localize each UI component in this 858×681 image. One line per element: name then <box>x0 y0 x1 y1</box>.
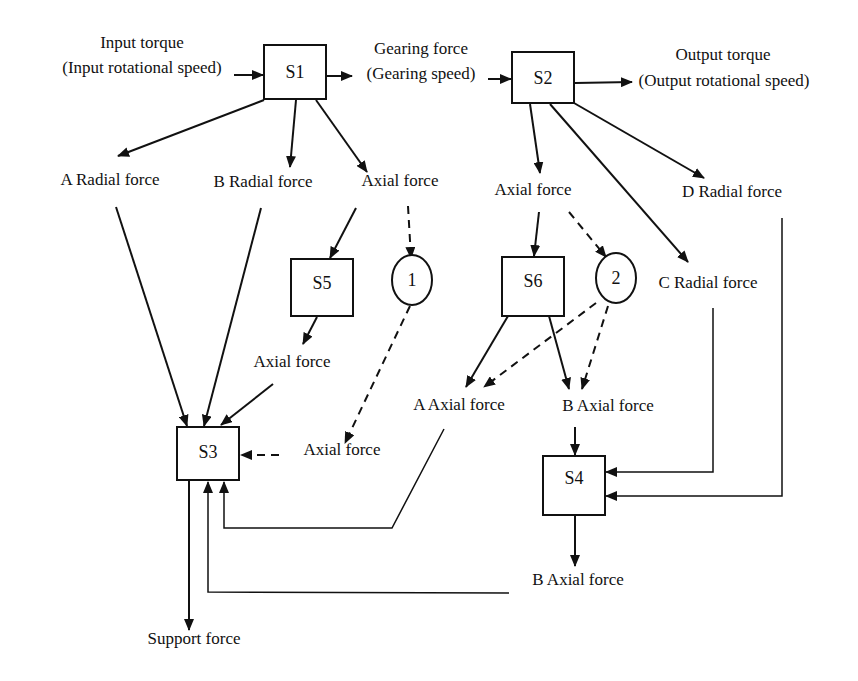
edge-a-radial-to-s3 <box>116 207 187 426</box>
label-input-torque: Input torque <box>100 33 184 52</box>
node-s5: S5 <box>291 259 353 316</box>
node-circle-1-label: 1 <box>408 270 417 290</box>
edges <box>116 75 782 630</box>
edge-circle-1-to-axial <box>345 306 410 443</box>
node-circle-2: 2 <box>596 253 636 303</box>
edge-s5-axial-to-s3 <box>221 384 273 425</box>
edge-s6-to-a-axial <box>466 316 508 387</box>
edge-axial-to-circle-1 <box>408 206 411 258</box>
labels: Input torque (Input rotational speed) Ge… <box>60 33 809 648</box>
label-gearing-speed: (Gearing speed) <box>366 64 475 83</box>
label-input-rotational-speed: (Input rotational speed) <box>62 58 222 77</box>
label-a-radial-force: A Radial force <box>60 170 159 189</box>
node-s2: S2 <box>512 52 574 103</box>
node-circle-2-label: 2 <box>612 268 621 288</box>
edge-c-radial-to-s4 <box>606 308 713 472</box>
edge-b-axial-to-s3 <box>208 482 509 593</box>
label-support-force: Support force <box>147 629 240 648</box>
label-axial-force-s2: Axial force <box>495 180 572 199</box>
label-output-torque: Output torque <box>676 45 771 64</box>
edge-d-radial-to-s4 <box>606 218 782 496</box>
label-axial-force-circle-1: Axial force <box>304 440 381 459</box>
node-s1: S1 <box>264 45 326 99</box>
label-c-radial-force: C Radial force <box>658 273 757 292</box>
node-s6: S6 <box>502 257 564 316</box>
label-b-radial-force: B Radial force <box>213 172 312 191</box>
edge-s2-to-d-radial <box>574 103 704 178</box>
edge-circle-2-to-b-axial <box>582 306 608 389</box>
edge-axial-to-s6 <box>534 212 539 256</box>
force-flow-diagram: S1 S2 S5 S6 S3 S4 1 2 Input torque (Inpu… <box>0 0 858 681</box>
label-b-axial-force-s4: B Axial force <box>532 570 624 589</box>
label-a-axial-force: A Axial force <box>413 395 505 414</box>
edge-s2-to-axial <box>530 104 540 173</box>
node-s6-label: S6 <box>523 271 542 291</box>
label-b-axial-force-s6: B Axial force <box>562 396 654 415</box>
label-gearing-force: Gearing force <box>374 39 468 58</box>
node-s5-label: S5 <box>312 273 331 293</box>
node-s1-label: S1 <box>285 62 304 82</box>
edge-axial-to-s5 <box>330 208 356 258</box>
edge-s1-to-axial <box>316 100 367 172</box>
edge-s1-to-b-radial <box>290 100 296 167</box>
node-s3: S3 <box>177 427 239 480</box>
edge-s5-to-axial <box>303 317 317 344</box>
edge-b-radial-to-s3 <box>204 208 261 426</box>
label-axial-force-s1: Axial force <box>362 171 439 190</box>
edge-axial-to-circle-2 <box>569 212 606 257</box>
label-axial-force-s5: Axial force <box>254 352 331 371</box>
edge-s2-to-output <box>575 82 632 83</box>
label-d-radial-force: D Radial force <box>682 182 782 201</box>
node-circle-1: 1 <box>392 255 432 305</box>
node-s2-label: S2 <box>533 68 552 88</box>
node-s4: S4 <box>543 456 605 515</box>
edge-s6-to-b-axial <box>549 316 569 389</box>
label-output-rotational-speed: (Output rotational speed) <box>639 71 810 90</box>
edge-s1-to-a-radial <box>118 100 264 156</box>
node-s4-label: S4 <box>564 468 583 488</box>
node-s3-label: S3 <box>198 442 217 462</box>
